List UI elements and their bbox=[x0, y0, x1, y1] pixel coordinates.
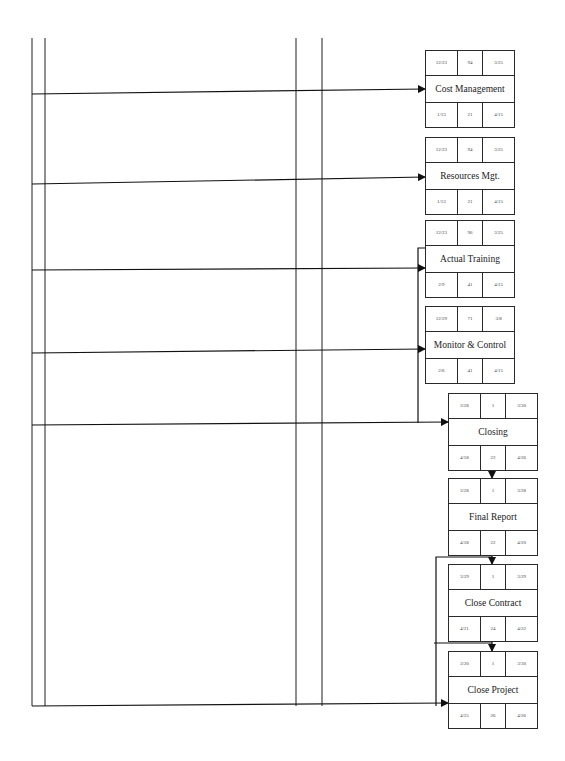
duration: 1 bbox=[481, 394, 507, 418]
early-finish: 3/30 bbox=[506, 394, 537, 418]
node-title: Monitor & Control bbox=[426, 332, 514, 358]
node-title: Closing bbox=[449, 419, 537, 445]
slack: 41 bbox=[458, 273, 484, 297]
node-title: Actual Training bbox=[426, 246, 514, 272]
late-start: 4/25 bbox=[449, 704, 481, 728]
duration: 71 bbox=[458, 307, 484, 331]
arrow-to-cost-management bbox=[32, 89, 425, 94]
arrow-to-actual-training bbox=[32, 268, 425, 270]
node-title: Close Project bbox=[449, 677, 537, 703]
early-start: 12/23 bbox=[426, 51, 458, 75]
early-start: 3/28 bbox=[449, 394, 481, 418]
duration: 96 bbox=[458, 221, 484, 245]
early-start: 12/23 bbox=[426, 138, 458, 162]
late-start: 4/21 bbox=[449, 617, 481, 641]
node-title: Cost Management bbox=[426, 76, 514, 102]
late-start: 2/9 bbox=[426, 273, 458, 297]
node-close-contract[interactable]: 3/29 1 3/29 Close Contract 4/21 24 4/22 bbox=[448, 564, 538, 642]
node-title: Resources Mgt. bbox=[426, 163, 514, 189]
arrow-to-resources-mgt bbox=[32, 177, 425, 184]
node-actual-training[interactable]: 12/23 96 3/25 Actual Training 2/9 41 4/1… bbox=[425, 220, 515, 298]
slack: 24 bbox=[481, 617, 507, 641]
duration: 1 bbox=[481, 479, 507, 503]
slack: 21 bbox=[458, 103, 484, 127]
node-monitor-control[interactable]: 12/29 71 3/8 Monitor & Control 2/6 41 4/… bbox=[425, 306, 515, 384]
late-start: 2/6 bbox=[426, 359, 458, 383]
node-cost-management[interactable]: 12/23 94 3/25 Cost Management 1/13 21 4/… bbox=[425, 50, 515, 128]
arrow-to-monitor-control bbox=[32, 349, 425, 353]
early-finish: 3/25 bbox=[483, 51, 514, 75]
late-finish: 4/15 bbox=[483, 103, 514, 127]
node-closing[interactable]: 3/28 1 3/30 Closing 4/18 22 4/26 bbox=[448, 393, 538, 471]
early-finish: 3/8 bbox=[483, 307, 514, 331]
early-finish: 3/25 bbox=[483, 221, 514, 245]
slack: 41 bbox=[458, 359, 484, 383]
early-finish: 3/25 bbox=[483, 138, 514, 162]
early-finish: 3/28 bbox=[506, 479, 537, 503]
early-finish: 3/29 bbox=[506, 565, 537, 589]
slack: 22 bbox=[481, 531, 507, 555]
late-finish: 4/26 bbox=[506, 446, 537, 470]
node-title: Final Report bbox=[449, 504, 537, 530]
early-start: 3/30 bbox=[449, 652, 481, 676]
late-finish: 4/22 bbox=[506, 617, 537, 641]
early-finish: 3/30 bbox=[506, 652, 537, 676]
node-resources-mgt[interactable]: 12/23 94 3/25 Resources Mgt. 1/13 21 4/1… bbox=[425, 137, 515, 215]
late-start: 4/18 bbox=[449, 531, 481, 555]
late-start: 4/18 bbox=[449, 446, 481, 470]
slack: 22 bbox=[481, 446, 507, 470]
duration: 94 bbox=[458, 138, 484, 162]
early-start: 3/28 bbox=[449, 479, 481, 503]
late-start: 1/13 bbox=[426, 190, 458, 214]
early-start: 3/29 bbox=[449, 565, 481, 589]
arrow-to-closing bbox=[32, 422, 448, 425]
node-close-project[interactable]: 3/30 1 3/30 Close Project 4/25 26 4/26 bbox=[448, 651, 538, 729]
node-final-report[interactable]: 3/28 1 3/28 Final Report 4/18 22 4/20 bbox=[448, 478, 538, 556]
arrow-to-close-project bbox=[32, 703, 448, 706]
node-title: Close Contract bbox=[449, 590, 537, 616]
connector-actual-to-closing bbox=[418, 248, 425, 423]
late-finish: 4/26 bbox=[506, 704, 537, 728]
late-start: 1/13 bbox=[426, 103, 458, 127]
late-finish: 4/15 bbox=[483, 359, 514, 383]
duration: 1 bbox=[481, 652, 507, 676]
late-finish: 4/15 bbox=[483, 190, 514, 214]
duration: 94 bbox=[458, 51, 484, 75]
duration: 1 bbox=[481, 565, 507, 589]
late-finish: 4/15 bbox=[483, 273, 514, 297]
early-start: 12/29 bbox=[426, 307, 458, 331]
slack: 26 bbox=[481, 704, 507, 728]
late-finish: 4/20 bbox=[506, 531, 537, 555]
slack: 21 bbox=[458, 190, 484, 214]
early-start: 12/23 bbox=[426, 221, 458, 245]
